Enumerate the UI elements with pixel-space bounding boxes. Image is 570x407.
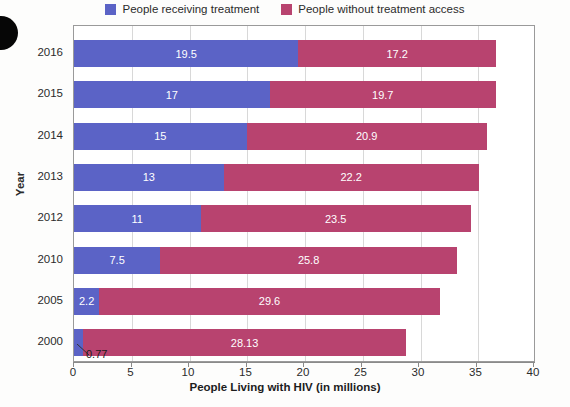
x-axis-tick-label: 5 [111,366,151,378]
y-axis-tick-label: 2000 [0,335,63,347]
bar-value-label: 19.7 [372,89,393,101]
bar-segment-treatment: 7.5 [74,247,160,274]
callout-label-2000-treatment: 0.77 [86,348,107,360]
legend-item-treatment: People receiving treatment [105,3,259,15]
legend-label-no-treatment: People without treatment access [298,3,464,15]
legend-swatch-icon-no-treatment [281,4,292,15]
y-axis-tick-label: 2012 [0,211,63,223]
bar-value-label: 22.2 [340,171,361,183]
bar-row: 1520.9 [74,123,487,150]
chart-screenshot: People receiving treatment People withou… [0,0,570,407]
bar-row: 28.13 [74,329,406,356]
y-axis-tick-label: 2015 [0,87,63,99]
bar-segment-no-treatment: 23.5 [201,205,471,232]
bar-value-label: 17 [166,89,178,101]
bar-row: 7.525.8 [74,247,457,274]
bar-row: 1123.5 [74,205,471,232]
chart-legend: People receiving treatment People withou… [0,3,570,15]
y-axis-tick-label: 2016 [0,46,63,58]
bar-value-label: 25.8 [298,254,319,266]
bar-segment-no-treatment: 22.2 [224,164,479,191]
bar-value-label: 2.2 [79,295,94,307]
legend-item-no-treatment: People without treatment access [281,3,464,15]
y-axis-tick-label: 2013 [0,170,63,182]
bar-segment-no-treatment: 25.8 [160,247,457,274]
bar-value-label: 7.5 [109,254,124,266]
bar-row: 19.517.2 [74,40,496,67]
bar-value-label: 23.5 [325,213,346,225]
x-axis-line [73,362,535,363]
bar-segment-treatment: 19.5 [74,40,298,67]
x-axis-tick-label: 10 [168,366,208,378]
bar-value-label: 15 [154,130,166,142]
bar-value-label: 28.13 [231,337,259,349]
x-axis-title: People Living with HIV (in millions) [0,381,570,393]
bar-value-label: 20.9 [356,130,377,142]
bar-segment-treatment: 13 [74,164,224,191]
x-axis-tick-label: 30 [398,366,438,378]
bar-segment-no-treatment: 28.13 [83,329,406,356]
scan-artifact-blob [0,16,18,50]
bar-value-label: 11 [132,213,143,225]
bar-segment-treatment: 17 [74,81,270,108]
x-axis-tick-label: 20 [283,366,323,378]
bar-segment-no-treatment: 29.6 [99,288,439,315]
bar-row: 1322.2 [74,164,479,191]
y-axis-tick-label: 2014 [0,129,63,141]
bar-value-label: 19.5 [175,48,196,60]
bar-row: 1719.7 [74,81,496,108]
bar-segment-treatment: 15 [74,123,247,150]
bar-segment-no-treatment: 19.7 [270,81,497,108]
bar-segment-no-treatment: 17.2 [298,40,496,67]
plot-area: 19.517.21719.71520.91322.21123.57.525.82… [73,25,535,362]
legend-label-treatment: People receiving treatment [122,3,259,15]
bar-value-label: 17.2 [386,48,407,60]
y-axis-tick-label: 2010 [0,253,63,265]
legend-swatch-icon-treatment [105,4,116,15]
x-axis-tick-label: 25 [341,366,381,378]
bar-value-label: 29.6 [259,295,280,307]
bar-row: 2.229.6 [74,288,440,315]
bar-rows: 19.517.21719.71520.91322.21123.57.525.82… [74,26,534,361]
bar-segment-no-treatment: 20.9 [247,123,487,150]
x-axis-tick-label: 15 [226,366,266,378]
y-axis-tick-label: 2005 [0,294,63,306]
bar-segment-treatment: 11 [74,205,201,232]
x-axis-tick-label: 35 [456,366,496,378]
bar-segment-treatment: 2.2 [74,288,99,315]
bar-value-label: 13 [143,171,155,183]
y-axis-title: Year [14,154,26,214]
x-axis-tick-label: 40 [513,366,553,378]
x-axis-tick-label: 0 [53,366,93,378]
